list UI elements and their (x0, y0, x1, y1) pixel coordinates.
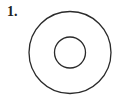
concentric-circles-figure (0, 0, 116, 103)
outer-circle (29, 12, 111, 94)
inner-circle (55, 37, 86, 68)
